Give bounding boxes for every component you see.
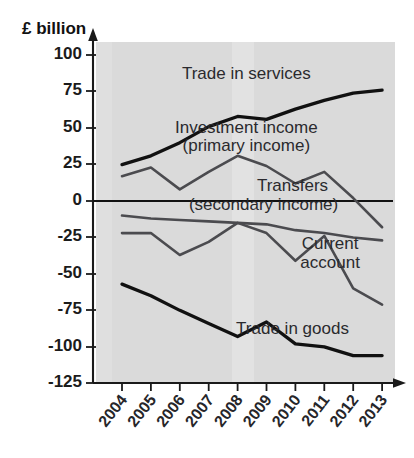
x-axis-year-label-2005: 2005 — [124, 391, 159, 430]
y-axis-ticks — [86, 55, 96, 383]
y-tick-label-25: 25 — [63, 153, 82, 172]
annotation-account: account — [300, 253, 360, 272]
annotation-trade-in-goods: Trade in goods — [236, 319, 349, 338]
annotation-primary-income: (primary income) — [183, 136, 311, 155]
x-axis-year-label-2006: 2006 — [153, 391, 188, 430]
x-axis-year-label-2004: 2004 — [95, 391, 130, 430]
x-axis-year-label-2008: 2008 — [211, 391, 246, 430]
y-tick-label-neg125: -125 — [48, 372, 82, 391]
y-tick-label-75: 75 — [63, 80, 82, 99]
y-tick-label-100: 100 — [54, 44, 82, 63]
x-axis-year-label-2013: 2013 — [355, 391, 390, 430]
x-axis-year-label-2010: 2010 — [268, 391, 303, 430]
y-axis-title: £ billion — [22, 19, 86, 38]
annotation-current: Current — [302, 234, 359, 253]
y-tick-label-neg100: -100 — [48, 336, 82, 355]
x-axis-year-label-2012: 2012 — [326, 391, 361, 430]
annotation-secondary-income: (secondary income) — [189, 195, 338, 214]
y-tick-label-neg50: -50 — [57, 263, 82, 282]
y-tick-label-50: 50 — [63, 117, 82, 136]
annotation-trade-in-services: Trade in services — [182, 64, 311, 83]
annotation-transfers: Transfers — [257, 176, 328, 195]
y-tick-label-neg75: -75 — [57, 299, 82, 318]
plot-left-band — [96, 42, 112, 382]
x-axis-year-label-2009: 2009 — [240, 391, 275, 430]
chart-figure: 100 75 50 25 0 -25 -50 -75 -100 -125 £ b… — [0, 0, 414, 458]
annotation-investment-income: Investment income — [175, 118, 318, 137]
x-axis-arrowhead — [393, 378, 406, 388]
x-axis-labels: 2004200520062007200820092010201120122013 — [95, 391, 390, 430]
y-axis-arrowhead — [88, 28, 98, 41]
balance-of-payments-line-chart: 100 75 50 25 0 -25 -50 -75 -100 -125 £ b… — [0, 0, 414, 458]
x-axis-ticks — [122, 383, 382, 391]
y-tick-label-neg25: -25 — [57, 226, 82, 245]
x-axis-year-label-2007: 2007 — [182, 391, 217, 430]
y-tick-label-0: 0 — [73, 190, 82, 209]
x-axis-year-label-2011: 2011 — [298, 391, 333, 429]
